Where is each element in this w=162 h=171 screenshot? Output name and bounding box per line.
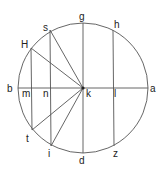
label-H: H (21, 39, 28, 50)
chord-si (50, 30, 51, 146)
circle-diagram: g d b a k H s h m n l t i z (0, 0, 162, 171)
chord-Ht (31, 48, 32, 130)
radius-ks (50, 30, 83, 88)
label-k: k (86, 88, 92, 99)
radius-kt (32, 88, 83, 130)
label-i: i (48, 148, 50, 159)
label-n: n (43, 88, 49, 99)
label-l: l (114, 88, 116, 99)
label-d: d (79, 155, 85, 166)
radius-ki (51, 88, 83, 146)
center-point (81, 86, 84, 89)
label-z: z (113, 148, 118, 159)
label-a: a (150, 83, 156, 94)
radius-kH (31, 48, 83, 88)
label-h: h (114, 19, 120, 30)
label-b: b (7, 83, 13, 94)
label-m: m (22, 88, 30, 99)
label-s: s (43, 22, 48, 33)
label-g: g (79, 11, 85, 22)
label-t: t (26, 133, 29, 144)
